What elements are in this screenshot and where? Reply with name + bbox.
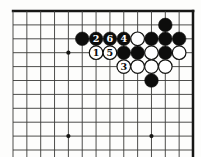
move-number-6: 6: [107, 33, 114, 44]
move-number-2: 2: [93, 33, 100, 44]
white-stone: [145, 60, 159, 74]
star-point: [66, 134, 70, 138]
white-stone: [131, 60, 145, 74]
go-diagram: 264153: [0, 0, 201, 157]
black-stone: [159, 46, 173, 60]
go-board: 264153: [0, 0, 201, 157]
black-stone: [131, 46, 145, 60]
black-stone: [145, 32, 159, 46]
white-stone: [172, 46, 186, 60]
star-point: [66, 51, 70, 55]
move-number-3: 3: [120, 61, 127, 72]
white-stone: [159, 60, 173, 74]
move-number-4: 4: [120, 33, 127, 44]
black-stone: [75, 32, 89, 46]
black-stone: [145, 74, 159, 88]
move-number-5: 5: [107, 47, 114, 58]
white-stone: [131, 32, 145, 46]
star-point: [149, 134, 153, 138]
black-stone: [172, 32, 186, 46]
white-stone: [145, 46, 159, 60]
black-stone: [117, 46, 131, 60]
move-number-1: 1: [93, 47, 100, 58]
black-stone: [159, 32, 173, 46]
black-stone: [159, 18, 173, 32]
